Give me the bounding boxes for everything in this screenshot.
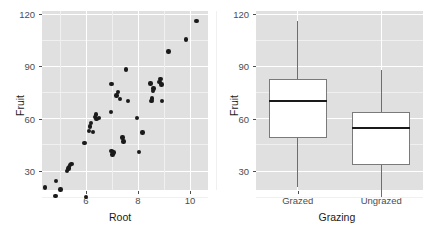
scatter-plot-area — [42, 11, 208, 190]
data-point — [140, 130, 144, 134]
data-point — [116, 90, 120, 94]
box-plot-box — [352, 112, 410, 165]
y-tick-label: 120 — [19, 9, 35, 20]
grid-line-horizontal — [256, 14, 423, 15]
grid-line-horizontal-minor — [256, 197, 423, 198]
data-point — [109, 110, 113, 114]
x-tick-mark — [138, 191, 139, 194]
data-point — [82, 141, 86, 145]
data-point — [148, 81, 152, 85]
data-point — [109, 82, 113, 86]
data-point — [111, 150, 115, 154]
grid-line-horizontal-minor — [256, 40, 423, 41]
boxplot-panel-container: Fruit 306090120 GrazedUngrazed Grazing — [214, 0, 427, 232]
data-point — [159, 82, 163, 86]
data-point — [54, 179, 58, 183]
data-point — [124, 67, 128, 71]
x-tick-mark — [190, 191, 191, 194]
y-tick-label: 30 — [238, 166, 249, 177]
data-point — [69, 162, 73, 166]
data-point — [194, 19, 198, 23]
data-point — [126, 99, 130, 103]
grid-line-vertical — [86, 11, 87, 190]
boxplot-plot-area — [256, 11, 423, 190]
data-point — [150, 96, 154, 100]
data-point — [53, 194, 57, 198]
data-point — [89, 121, 93, 125]
data-point — [166, 49, 170, 53]
box-median-line — [352, 127, 410, 129]
x-tick-mark — [86, 191, 87, 194]
data-point — [43, 185, 47, 189]
y-tick-label: 120 — [233, 9, 249, 20]
box-median-line — [269, 100, 327, 102]
data-point — [118, 97, 122, 101]
x-tick-mark — [298, 191, 299, 194]
data-point — [91, 130, 95, 134]
box-plot-box — [269, 79, 327, 138]
scatter-panel-container: Fruit 306090120 6810 Root — [0, 0, 214, 232]
left-x-axis-title: Root — [109, 211, 131, 223]
grid-line-vertical-minor — [112, 11, 113, 190]
data-point — [121, 139, 125, 143]
data-point — [97, 116, 101, 120]
data-point — [137, 150, 141, 154]
y-tick-label: 60 — [24, 113, 35, 124]
y-tick-label: 30 — [24, 166, 35, 177]
data-point — [158, 77, 162, 81]
right-x-axis-title: Grazing — [319, 211, 356, 223]
grid-line-vertical — [138, 11, 139, 190]
y-tick-label: 60 — [238, 113, 249, 124]
grid-line-vertical-minor — [60, 11, 61, 190]
grid-line-horizontal-minor — [42, 197, 208, 198]
data-point — [151, 86, 155, 90]
grid-line-horizontal-minor — [42, 92, 208, 93]
grid-line-vertical — [190, 11, 191, 190]
data-point — [184, 37, 188, 41]
grid-line-horizontal-minor — [42, 144, 208, 145]
grid-line-horizontal — [256, 66, 423, 67]
y-tick-label: 90 — [24, 61, 35, 72]
grid-line-horizontal — [42, 118, 208, 119]
two-panel-figure: Fruit 306090120 6810 Root Fruit 30609012… — [0, 0, 427, 232]
grid-line-horizontal — [256, 171, 423, 172]
data-point — [58, 187, 62, 191]
grid-line-horizontal — [42, 14, 208, 15]
y-tick-label: 90 — [238, 61, 249, 72]
